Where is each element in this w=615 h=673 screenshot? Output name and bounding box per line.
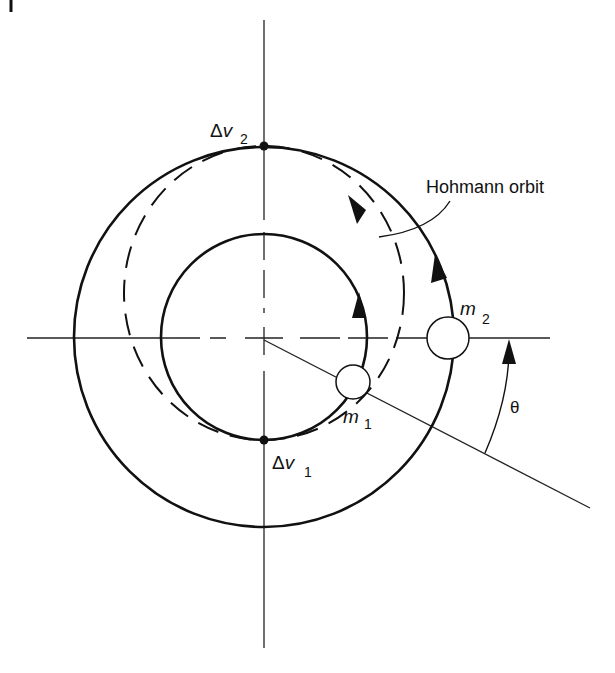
- arrow-inner-orbit-icon: [352, 292, 366, 318]
- svg-text:1: 1: [364, 416, 372, 432]
- svg-text:1: 1: [304, 464, 312, 480]
- dv2-point: [260, 142, 269, 151]
- dv2-label: Δv 2: [210, 120, 248, 147]
- theta-arrow-icon: [502, 339, 516, 364]
- svg-text:m: m: [460, 298, 476, 319]
- hohmann-diagram: Hohmann orbit Δv 2 Δv 1 m 1 m 2 θ: [0, 0, 615, 673]
- dv1-label: Δv 1: [272, 452, 312, 480]
- svg-text:2: 2: [482, 311, 490, 327]
- radial-line: [264, 340, 590, 508]
- svg-text:2: 2: [240, 131, 248, 147]
- svg-text:Δv: Δv: [272, 452, 296, 473]
- arrow-outer-orbit-icon: [431, 254, 447, 283]
- axes: [27, 20, 550, 648]
- dv1-point: [260, 436, 269, 445]
- theta-label: θ: [510, 398, 519, 417]
- hohmann-label: Hohmann orbit: [426, 177, 544, 197]
- theta-arc: [485, 352, 509, 453]
- m2-label: m 2: [460, 298, 490, 327]
- svg-text:m: m: [343, 406, 359, 427]
- arrow-hohmann-icon: [348, 195, 366, 224]
- mass-m2: [427, 317, 469, 359]
- m1-label: m 1: [343, 406, 372, 432]
- svg-text:Δv: Δv: [210, 120, 234, 141]
- mass-m1: [336, 365, 370, 399]
